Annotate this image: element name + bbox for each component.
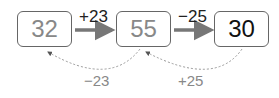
- backward-arc-1: [48, 49, 140, 69]
- value-box-1: 32: [17, 11, 72, 47]
- backward-arc-2: [146, 49, 242, 69]
- forward-op-label-2: −25: [178, 7, 207, 27]
- backward-op-label-1: −23: [84, 72, 109, 89]
- backward-op-label-2: +25: [178, 72, 203, 89]
- value-box-3: 30: [214, 11, 269, 47]
- value-box-2: 55: [116, 11, 171, 47]
- forward-op-label-1: +23: [79, 7, 108, 27]
